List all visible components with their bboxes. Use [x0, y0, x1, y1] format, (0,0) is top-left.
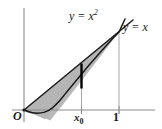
x-axis-tick-label-one: 1	[113, 111, 119, 123]
curve-label-parabola-text: y = x	[69, 9, 94, 23]
math-figure: y = x2 y = x O x0 1	[0, 0, 162, 129]
origin-point	[22, 108, 25, 111]
curve-label-parabola-exponent: 2	[94, 8, 98, 17]
x-axis-tick-label-x0: x0	[74, 112, 84, 126]
curve-label-parabola: y = x2	[69, 9, 98, 22]
curve-label-line: y = x	[123, 21, 148, 33]
shaded-region-fill	[24, 32, 119, 119]
axis-label-origin: O	[13, 110, 22, 122]
x-axis-tick-label-x0-subscript: 0	[80, 117, 84, 126]
